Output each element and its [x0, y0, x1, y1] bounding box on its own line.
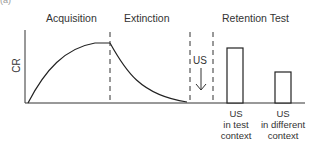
acquisition-curve [28, 43, 110, 103]
bar-test-context [227, 48, 243, 103]
panel-label: (a) [0, 0, 11, 5]
phase-extinction: Extinction [124, 13, 170, 24]
y-axis-label: CR [11, 58, 22, 72]
phase-retention: Retention Test [222, 13, 289, 24]
bar-label-different-context: US in different context [261, 108, 305, 141]
bar-label-test-context: US in test context [221, 108, 252, 141]
phase-acquisition: Acquisition [46, 13, 97, 24]
us-marker-label: US [193, 56, 207, 66]
bar-different-context [275, 72, 291, 103]
extinction-curve [110, 43, 187, 102]
